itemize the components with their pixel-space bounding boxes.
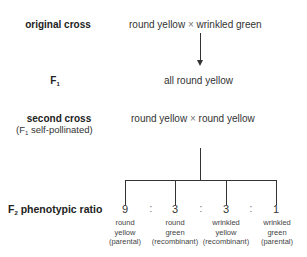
- f1-label: F1: [48, 75, 62, 87]
- f2-label: F2 phenotypic ratio: [8, 203, 102, 216]
- second-cross-parents: round yellow × round yellow: [131, 113, 255, 124]
- cross-symbol: ×: [188, 19, 194, 30]
- parent2: round yellow: [199, 113, 255, 124]
- ratio-value: 3: [165, 203, 185, 215]
- ratio-separator: :: [246, 203, 256, 214]
- parent2: wrinkled green: [197, 19, 262, 30]
- tree-branch-3: [226, 180, 227, 205]
- original-cross-label: original cross: [22, 19, 94, 30]
- tree-stem: [200, 148, 201, 180]
- parent1: round yellow: [129, 19, 185, 30]
- cross-symbol: ×: [190, 113, 196, 124]
- ratio-value: 9: [115, 203, 135, 215]
- arrow-down-icon: [197, 60, 203, 66]
- ratio-separator: :: [146, 203, 156, 214]
- parent1: round yellow: [131, 113, 187, 124]
- arrow-shaft: [200, 33, 201, 61]
- phenotype-description: wrinkled green (parental): [247, 218, 307, 247]
- ratio-value: 1: [266, 203, 286, 215]
- tree-crossbar: [125, 180, 277, 181]
- tree-branch-1: [125, 180, 126, 205]
- second-cross-label: second cross: [22, 113, 96, 124]
- ratio-value: 3: [216, 203, 236, 215]
- original-cross-parents: round yellow × wrinkled green: [129, 19, 262, 30]
- second-cross-sublabel: (F1 self-pollinated): [16, 124, 93, 136]
- tree-branch-2: [175, 180, 176, 205]
- tree-branch-4: [276, 180, 277, 205]
- ratio-separator: :: [196, 203, 206, 214]
- f1-result: all round yellow: [164, 75, 233, 86]
